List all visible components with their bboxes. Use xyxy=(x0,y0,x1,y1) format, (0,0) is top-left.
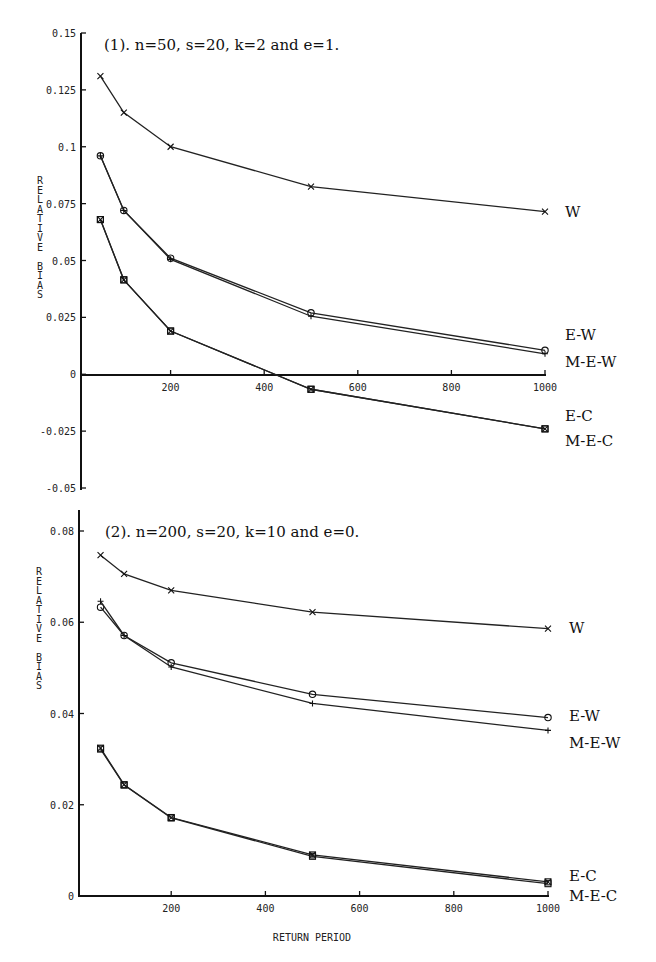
series-m-e-c xyxy=(97,217,548,432)
series-label-m-e-c: M-E-C xyxy=(565,432,613,450)
x-tick-label: 600 xyxy=(349,382,367,393)
plus-marker-icon xyxy=(545,727,551,733)
plus-marker-icon xyxy=(310,700,316,706)
chart-title: (1). n=50, s=20, k=2 and e=1. xyxy=(104,36,339,54)
series-line xyxy=(100,220,545,429)
y-tick-label: -0.025 xyxy=(40,426,76,437)
plus-marker-icon xyxy=(308,313,314,319)
series-line xyxy=(100,156,545,351)
y-tick-label: -0.05 xyxy=(46,483,76,494)
square-x-marker-cross xyxy=(168,328,174,334)
chart-panel-2: 0.080.060.040.0202004006008001000(2). n=… xyxy=(36,510,621,943)
series-label-e-c: E-C xyxy=(569,867,597,885)
chart-title: (2). n=200, s=20, k=10 and e=0. xyxy=(105,523,359,541)
y-axis-label-letter: E xyxy=(37,242,43,253)
x-axis-label: RETURN PERIOD xyxy=(273,932,351,943)
x-tick-label: 600 xyxy=(351,903,369,914)
y-axis-label: RELATIVEBIAS xyxy=(36,566,43,691)
x-marker-icon xyxy=(98,552,104,558)
square-x-marker-cross xyxy=(97,217,103,223)
x-marker-icon xyxy=(121,110,127,116)
y-tick-label: 0.02 xyxy=(50,800,74,811)
y-tick-label: 0.1 xyxy=(58,142,76,153)
y-tick-label: 0.025 xyxy=(46,312,76,323)
y-axis-label-letter: S xyxy=(36,680,42,691)
series-m-e-w xyxy=(98,598,551,733)
y-tick-label: 0.04 xyxy=(50,709,74,720)
square-x-marker-cross xyxy=(121,277,127,283)
x-tick-label: 800 xyxy=(445,903,463,914)
plus-marker-icon xyxy=(542,351,548,357)
y-tick-label: 0.075 xyxy=(46,199,76,210)
x-tick-label: 400 xyxy=(255,382,273,393)
series-label-e-w: E-W xyxy=(569,707,600,725)
x-tick-label: 200 xyxy=(162,903,180,914)
series-label-e-c: E-C xyxy=(565,407,593,425)
y-tick-label: 0.125 xyxy=(46,85,76,96)
y-axis-label-letter: S xyxy=(37,289,43,300)
figure-canvas: 0.150.1250.10.0750.050.0250-0.025-0.0520… xyxy=(0,0,656,962)
series-label-w: W xyxy=(569,619,585,637)
y-tick-label: 0.15 xyxy=(52,28,76,39)
y-tick-label: 0 xyxy=(70,369,76,380)
series-w xyxy=(98,552,551,631)
x-marker-icon xyxy=(121,571,127,577)
x-marker-icon xyxy=(97,73,103,79)
x-tick-label: 1000 xyxy=(533,382,557,393)
figure: 0.150.1250.10.0750.050.0250-0.025-0.0520… xyxy=(0,0,656,962)
x-tick-label: 200 xyxy=(162,382,180,393)
y-axis-label-letter: E xyxy=(36,633,42,644)
y-axis-label: RELATIVEBIAS xyxy=(37,175,44,300)
series-line xyxy=(100,76,545,211)
series-label-m-e-c: M-E-C xyxy=(569,887,617,905)
x-tick-label: 800 xyxy=(442,382,460,393)
series-line xyxy=(100,156,545,354)
x-tick-label: 1000 xyxy=(536,903,560,914)
chart-panel-1: 0.150.1250.10.0750.050.0250-0.025-0.0520… xyxy=(37,28,617,494)
y-tick-label: 0.08 xyxy=(50,526,74,537)
y-tick-label: 0.05 xyxy=(52,256,76,267)
y-tick-label: 0.06 xyxy=(50,617,74,628)
series-line xyxy=(101,555,548,628)
series-label-e-w: E-W xyxy=(565,326,596,344)
series-e-c xyxy=(98,745,551,885)
series-w xyxy=(97,73,548,214)
y-tick-label: 0 xyxy=(68,891,74,902)
series-line xyxy=(100,220,545,429)
series-label-m-e-w: M-E-W xyxy=(565,353,617,371)
series-label-w: W xyxy=(565,203,581,221)
series-label-m-e-w: M-E-W xyxy=(569,734,621,752)
x-tick-label: 400 xyxy=(256,903,274,914)
series-m-e-c xyxy=(98,746,551,887)
series-m-e-w xyxy=(97,153,548,357)
